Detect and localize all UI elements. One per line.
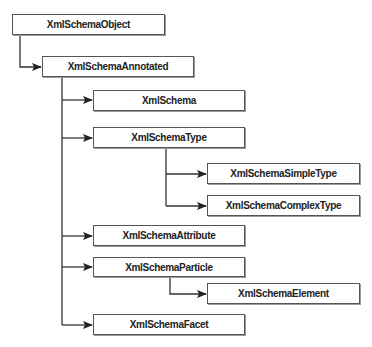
node-xmlschemaattribute: XmlSchemaAttribute: [93, 225, 245, 246]
node-label: XmlSchemaAnnotated: [68, 61, 169, 72]
edge-object-annotated: [20, 35, 41, 67]
edge-particle-element: [170, 278, 206, 294]
node-xmlschemacomplextype: XmlSchemaComplexType: [207, 195, 360, 216]
node-label: XmlSchemaElement: [238, 288, 329, 299]
node-label: XmlSchemaObject: [47, 19, 130, 30]
node-label: XmlSchemaParticle: [125, 262, 213, 273]
node-xmlschemaelement: XmlSchemaElement: [207, 283, 360, 304]
node-label: XmlSchemaSimpleType: [230, 168, 336, 179]
node-label: XmlSchemaAttribute: [123, 230, 216, 241]
node-xmlschemaobject: XmlSchemaObject: [12, 14, 165, 35]
node-xmlschematype: XmlSchemaType: [93, 127, 245, 148]
node-label: XmlSchemaType: [131, 132, 206, 143]
node-xmlschemaannotated: XmlSchemaAnnotated: [42, 56, 194, 77]
node-xmlschemafacet: XmlSchemaFacet: [93, 314, 245, 335]
node-xmlschema: XmlSchema: [93, 90, 245, 111]
node-label: XmlSchemaFacet: [130, 319, 209, 330]
node-label: XmlSchema: [142, 95, 196, 106]
node-xmlschemaparticle: XmlSchemaParticle: [93, 257, 245, 277]
node-label: XmlSchemaComplexType: [226, 200, 342, 211]
node-xmlschemasimpletype: XmlSchemaSimpleType: [207, 163, 360, 184]
